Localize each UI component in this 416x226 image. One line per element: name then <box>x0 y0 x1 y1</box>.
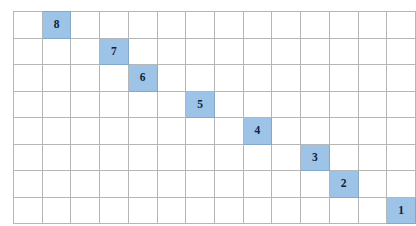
grid-cell-empty[interactable] <box>128 38 157 65</box>
grid-cell-empty[interactable] <box>100 12 129 39</box>
grid-cell-empty[interactable] <box>329 144 358 171</box>
grid-cell-empty[interactable] <box>71 118 100 145</box>
grid-cell-empty[interactable] <box>329 65 358 92</box>
grid-cell-empty[interactable] <box>358 144 387 171</box>
grid-cell-empty[interactable] <box>272 65 301 92</box>
grid-cell-empty[interactable] <box>100 91 129 118</box>
grid-cell-empty[interactable] <box>42 197 71 224</box>
grid-cell-empty[interactable] <box>42 171 71 198</box>
grid-cell-empty[interactable] <box>214 91 243 118</box>
grid-cell-empty[interactable] <box>387 144 416 171</box>
grid-cell-empty[interactable] <box>329 38 358 65</box>
grid-cell-filled[interactable]: 8 <box>42 12 71 39</box>
grid-cell-empty[interactable] <box>358 91 387 118</box>
grid-cell-empty[interactable] <box>243 91 272 118</box>
grid-cell-empty[interactable] <box>157 118 186 145</box>
grid-cell-empty[interactable] <box>358 38 387 65</box>
grid-cell-empty[interactable] <box>42 38 71 65</box>
grid-cell-empty[interactable] <box>301 118 330 145</box>
grid-cell-empty[interactable] <box>14 144 43 171</box>
grid-cell-empty[interactable] <box>100 65 129 92</box>
grid-cell-empty[interactable] <box>14 91 43 118</box>
grid-cell-empty[interactable] <box>186 65 215 92</box>
grid-cell-empty[interactable] <box>243 171 272 198</box>
grid-cell-empty[interactable] <box>186 197 215 224</box>
grid-cell-empty[interactable] <box>301 91 330 118</box>
grid-cell-empty[interactable] <box>272 118 301 145</box>
grid-cell-filled[interactable]: 2 <box>329 171 358 198</box>
grid-cell-empty[interactable] <box>128 118 157 145</box>
grid-cell-empty[interactable] <box>157 91 186 118</box>
grid-cell-empty[interactable] <box>358 118 387 145</box>
grid-cell-empty[interactable] <box>100 144 129 171</box>
grid-cell-empty[interactable] <box>358 171 387 198</box>
grid-cell-empty[interactable] <box>128 12 157 39</box>
grid-cell-filled[interactable]: 5 <box>186 91 215 118</box>
grid-cell-empty[interactable] <box>272 171 301 198</box>
grid-cell-empty[interactable] <box>301 38 330 65</box>
grid-cell-empty[interactable] <box>157 144 186 171</box>
grid-cell-empty[interactable] <box>243 12 272 39</box>
grid-cell-empty[interactable] <box>128 91 157 118</box>
grid-cell-empty[interactable] <box>157 38 186 65</box>
grid-cell-filled[interactable]: 4 <box>243 118 272 145</box>
grid-cell-empty[interactable] <box>272 91 301 118</box>
grid-cell-empty[interactable] <box>243 144 272 171</box>
grid-cell-empty[interactable] <box>243 38 272 65</box>
grid-cell-empty[interactable] <box>387 12 416 39</box>
grid-cell-filled[interactable]: 1 <box>387 197 416 224</box>
grid-cell-empty[interactable] <box>14 118 43 145</box>
grid-cell-empty[interactable] <box>214 197 243 224</box>
grid-cell-empty[interactable] <box>214 12 243 39</box>
grid-cell-empty[interactable] <box>301 197 330 224</box>
grid-cell-empty[interactable] <box>387 65 416 92</box>
grid-cell-empty[interactable] <box>329 118 358 145</box>
grid-cell-empty[interactable] <box>243 197 272 224</box>
grid-cell-empty[interactable] <box>157 171 186 198</box>
grid-cell-empty[interactable] <box>387 171 416 198</box>
grid-cell-empty[interactable] <box>186 38 215 65</box>
grid-cell-empty[interactable] <box>329 197 358 224</box>
grid-cell-empty[interactable] <box>14 12 43 39</box>
grid-cell-empty[interactable] <box>387 38 416 65</box>
grid-cell-empty[interactable] <box>71 12 100 39</box>
grid-cell-empty[interactable] <box>71 144 100 171</box>
grid-cell-empty[interactable] <box>157 65 186 92</box>
grid-cell-empty[interactable] <box>214 144 243 171</box>
grid-cell-empty[interactable] <box>329 91 358 118</box>
grid-cell-empty[interactable] <box>128 144 157 171</box>
grid-cell-empty[interactable] <box>214 38 243 65</box>
grid-cell-empty[interactable] <box>272 144 301 171</box>
grid-cell-empty[interactable] <box>186 171 215 198</box>
grid-cell-empty[interactable] <box>71 38 100 65</box>
grid-cell-empty[interactable] <box>128 197 157 224</box>
grid-cell-filled[interactable]: 6 <box>128 65 157 92</box>
grid-cell-empty[interactable] <box>301 12 330 39</box>
grid-cell-empty[interactable] <box>42 144 71 171</box>
grid-cell-empty[interactable] <box>387 91 416 118</box>
grid-cell-empty[interactable] <box>301 171 330 198</box>
grid-cell-empty[interactable] <box>272 197 301 224</box>
grid-cell-empty[interactable] <box>14 65 43 92</box>
grid-cell-empty[interactable] <box>272 38 301 65</box>
grid-cell-empty[interactable] <box>186 144 215 171</box>
grid-cell-empty[interactable] <box>358 197 387 224</box>
grid-cell-empty[interactable] <box>100 118 129 145</box>
grid-cell-empty[interactable] <box>358 12 387 39</box>
grid-cell-empty[interactable] <box>186 118 215 145</box>
grid-cell-empty[interactable] <box>14 171 43 198</box>
grid-cell-empty[interactable] <box>71 171 100 198</box>
grid-cell-empty[interactable] <box>243 65 272 92</box>
grid-cell-empty[interactable] <box>186 12 215 39</box>
grid-cell-empty[interactable] <box>42 65 71 92</box>
grid-cell-empty[interactable] <box>358 65 387 92</box>
grid-cell-empty[interactable] <box>71 65 100 92</box>
grid-cell-filled[interactable]: 7 <box>100 38 129 65</box>
grid-cell-empty[interactable] <box>100 197 129 224</box>
grid-cell-empty[interactable] <box>42 118 71 145</box>
grid-cell-empty[interactable] <box>100 171 129 198</box>
grid-cell-empty[interactable] <box>157 12 186 39</box>
grid-cell-empty[interactable] <box>214 118 243 145</box>
grid-cell-empty[interactable] <box>42 91 71 118</box>
grid-cell-empty[interactable] <box>14 197 43 224</box>
